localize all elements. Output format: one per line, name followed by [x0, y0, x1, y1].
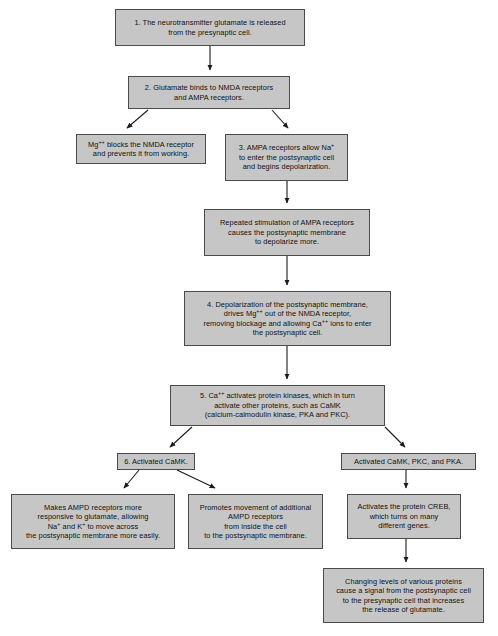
node-step-2-glutamate-binds-receptors[interactable]: 2. Glutamate binds to NMDA receptorsand … — [128, 76, 290, 109]
node-activates-protein-creb[interactable]: Activates the protein CREB,which turns o… — [347, 494, 461, 539]
edge-n7-to-n9 — [385, 427, 405, 447]
node-activated-camk-pkc-pka[interactable]: Activated CaMK, PKC, and PKA. — [341, 453, 476, 470]
edge-n2-to-n4 — [272, 110, 288, 128]
node-step-6-activated-camk[interactable]: 6. Activated CaMK. — [117, 453, 195, 470]
node-text: 6. Activated CaMK. — [121, 457, 191, 466]
node-text: Promotes movement of additionalAMPD rece… — [192, 503, 319, 541]
edge-n7-to-n8 — [170, 427, 192, 447]
edge-n8-to-n11 — [177, 470, 215, 488]
node-text: 5. Ca++ activates protein kinases, which… — [174, 391, 381, 419]
node-text: 2. Glutamate binds to NMDA receptorsand … — [132, 83, 286, 102]
node-text: 1. The neurotransmitter glutamate is rel… — [119, 18, 301, 37]
edge-n8-to-n10 — [124, 470, 139, 488]
node-text: 4. Depolarization of the postsynaptic me… — [188, 300, 387, 338]
node-text: Changing levels of various proteinscause… — [327, 577, 480, 615]
node-repeated-stimulation-ampa[interactable]: Repeated stimulation of AMPA receptorsca… — [204, 209, 370, 256]
node-text: 3. AMPA receptors allow Na+to enter the … — [229, 143, 344, 171]
node-step-5-ca-activates-protein-kinases[interactable]: 5. Ca++ activates protein kinases, which… — [170, 385, 385, 426]
node-makes-ampd-receptors-responsive[interactable]: Makes AMPD receptors moreresponsive to g… — [11, 494, 175, 549]
node-promotes-movement-ampd-receptors[interactable]: Promotes movement of additionalAMPD rece… — [188, 494, 323, 549]
flowchart-canvas: 1. The neurotransmitter glutamate is rel… — [0, 0, 498, 636]
node-changing-protein-levels-retrograde-signal[interactable]: Changing levels of various proteinscause… — [323, 568, 484, 623]
node-step-4-depolarization-drives-mg-out[interactable]: 4. Depolarization of the postsynaptic me… — [184, 291, 391, 346]
node-text: Makes AMPD receptors moreresponsive to g… — [15, 503, 171, 541]
node-step-3-ampa-allows-na[interactable]: 3. AMPA receptors allow Na+to enter the … — [225, 134, 348, 181]
node-text: Repeated stimulation of AMPA receptorsca… — [208, 218, 366, 246]
node-text: Mg++ blocks the NMDA receptorand prevent… — [80, 140, 202, 159]
edge-n2-to-n3 — [127, 110, 148, 128]
node-text: Activated CaMK, PKC, and PKA. — [345, 457, 472, 466]
node-text: Activates the protein CREB,which turns o… — [351, 502, 457, 530]
node-step-1-glutamate-released[interactable]: 1. The neurotransmitter glutamate is rel… — [115, 9, 305, 46]
node-mg-blocks-nmda-receptor[interactable]: Mg++ blocks the NMDA receptorand prevent… — [76, 134, 206, 164]
